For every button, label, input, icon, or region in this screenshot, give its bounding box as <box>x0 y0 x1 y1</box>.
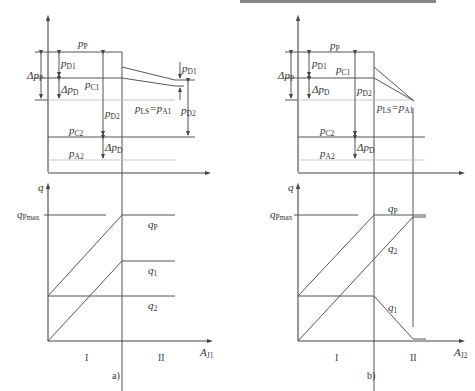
label-delta-pP-b: ΔpP <box>278 70 294 83</box>
label-q1-b: q1 <box>388 302 397 315</box>
label-pC2-b: pC2 <box>320 125 334 138</box>
label-pD1-b: pD1 <box>312 58 327 71</box>
label-pLS-a: pLS=pA1 <box>135 103 171 116</box>
label-q2-a: q2 <box>148 300 157 313</box>
label-x-axis-b: AJ2 <box>454 347 467 360</box>
label-pC2-a: pC2 <box>69 125 83 138</box>
label-delta-pD-low-b: ΔpD <box>357 142 374 155</box>
label-pD2-right-a: pD2 <box>181 105 196 118</box>
caption-a: a) <box>112 370 120 381</box>
label-delta-pP-a: ΔpP <box>27 70 43 83</box>
label-pD2-b: pD2 <box>357 85 372 98</box>
label-q2-b: q2 <box>388 243 397 256</box>
caption-b: b) <box>367 370 375 381</box>
label-q1-a: q1 <box>148 265 157 278</box>
label-pD2-a: pD2 <box>105 108 120 121</box>
region-I-a: I <box>85 352 88 363</box>
label-qP-b: qP <box>388 203 398 216</box>
label-qPmax-a: qPmax <box>17 209 40 222</box>
region-II-b: II <box>410 352 417 363</box>
label-delta-pD-a: ΔpD <box>61 84 78 97</box>
label-pLS-b: pLS=pA1 <box>377 102 413 115</box>
region-II-a: II <box>158 352 165 363</box>
label-pC1-b: pC1 <box>336 64 350 77</box>
label-q-axis-a: q <box>38 182 44 193</box>
label-q-axis-b: q <box>288 182 294 193</box>
label-delta-pD-low-a: ΔpD <box>105 142 122 155</box>
label-pP-b: pP <box>330 40 340 53</box>
label-qPmax-b: qPmax <box>270 209 293 222</box>
label-pP-a: pP <box>78 38 88 51</box>
label-pA2-a: pA2 <box>69 148 84 161</box>
label-qP-a: qP <box>148 219 158 232</box>
panel-b <box>285 18 462 391</box>
label-pC1-a: pC1 <box>85 79 99 92</box>
label-pD1-a: pD1 <box>61 58 76 71</box>
label-pD1-right-a: pD1 <box>182 63 197 76</box>
label-pA2-b: pA2 <box>320 148 335 161</box>
label-x-axis-a: AJ1 <box>200 347 213 360</box>
region-I-b: I <box>335 352 338 363</box>
label-delta-pD-b: ΔpD <box>312 84 329 97</box>
